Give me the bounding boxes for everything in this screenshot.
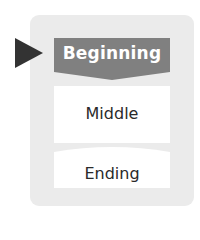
stage-beginning[interactable]: Beginning xyxy=(54,38,170,80)
stage-label: Middle xyxy=(54,104,170,123)
stage-label: Ending xyxy=(54,164,170,183)
stage-middle[interactable]: Middle xyxy=(54,86,170,143)
triangle-right-icon xyxy=(15,38,43,68)
stage-label: Beginning xyxy=(54,43,170,63)
stage-ending[interactable]: Ending xyxy=(54,146,170,188)
